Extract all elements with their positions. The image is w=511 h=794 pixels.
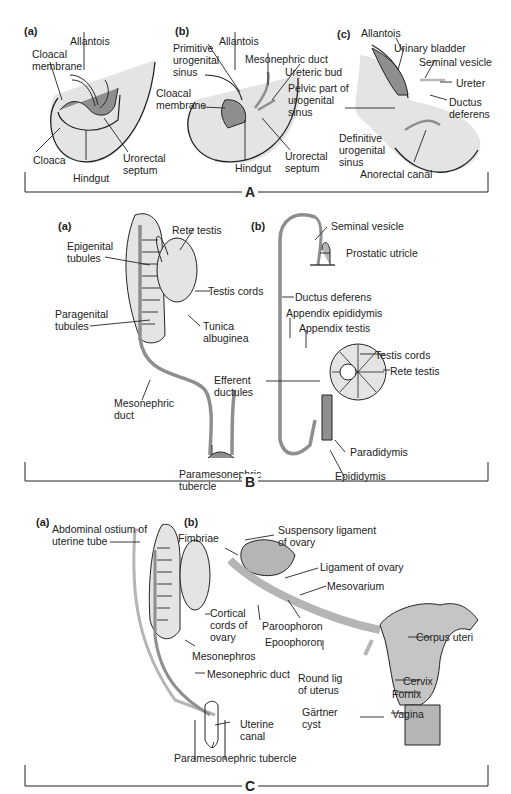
label-round-ligament: Round lig of uterus: [298, 672, 342, 696]
label-pelvic-part-urogenital-sinus: Pelvic part of urogenital sinus: [288, 82, 349, 118]
subpanel-tag-b-a: (a): [58, 220, 71, 232]
label-mesonephric-duct: Mesonephric duct: [207, 668, 290, 680]
label-cloaca: Cloaca: [33, 154, 66, 166]
panel-label-a: A: [242, 184, 258, 200]
label-ureteric-bud: Ureteric bud: [285, 66, 342, 78]
label-suspensory-ligament: Suspensory ligament of ovary: [278, 524, 376, 548]
label-rete-testis: Rete testis: [172, 224, 222, 236]
label-hindgut: Hindgut: [235, 162, 271, 174]
label-rete-testis: Rete testis: [390, 365, 440, 377]
label-allantois: Allantois: [70, 35, 110, 47]
label-cervix: Cervix: [403, 675, 433, 687]
label-epoophoron: Epoophoron: [265, 636, 322, 648]
subpanel-tag-a-a: (a): [24, 25, 37, 37]
label-ureter: Ureter: [456, 77, 485, 89]
label-mesonephric-duct: Mesonephric duct: [114, 397, 174, 421]
label-epididymis: Epididymis: [335, 470, 386, 482]
label-abdominal-ostium: Abdominal ostium of uterine tube: [52, 523, 147, 547]
label-uterine-canal: Uterine canal: [240, 718, 274, 742]
label-tunica-albuginea: Tunica albuginea: [203, 320, 249, 344]
label-vagina: Vagina: [392, 708, 424, 720]
label-seminal-vesicle: Seminal vesicle: [419, 56, 492, 68]
label-urorectal-septum: Urorectal septum: [285, 150, 328, 174]
label-testis-cords: Testis cords: [375, 349, 430, 361]
label-ductus-deferens: Ductus deferens: [295, 291, 371, 303]
panel-label-c: C: [242, 778, 258, 794]
subpanel-tag-c-a: (a): [36, 516, 49, 528]
label-epigenital-tubules: Epigenital tubules: [67, 240, 113, 264]
label-anorectal-canal: Anorectal canal: [360, 168, 432, 180]
panel-label-b: B: [242, 474, 258, 490]
label-mesonephric-duct: Mesonephric duct: [245, 53, 328, 65]
label-mesonephros: Mesonephros: [192, 650, 256, 662]
label-efferent-ductules: Efferent ductules: [214, 374, 253, 398]
label-cortical-cords: Cortical cords of ovary: [210, 607, 247, 643]
label-cloacal-membrane: Cloacal membrane: [32, 48, 82, 72]
label-hindgut: Hindgut: [73, 172, 109, 184]
label-appendix-testis: Appendix testis: [299, 322, 370, 334]
label-mesovarium: Mesovarium: [327, 580, 384, 592]
label-fimbriae: Fimbriae: [178, 532, 219, 544]
subpanel-tag-c-b: (b): [184, 516, 198, 528]
label-urorectal-septum: Urorectal septum: [123, 152, 166, 176]
label-paramesonephric-tubercle: Paramesonephric tubercle: [174, 752, 297, 764]
label-fornix: Fornix: [392, 688, 421, 700]
label-primitive-urogenital-sinus: Primitive urogenital sinus: [173, 42, 219, 78]
label-cloacal-membrane: Cloacal membrane: [156, 87, 206, 111]
label-prostatic-utricle: Prostatic utricle: [346, 247, 418, 259]
label-seminal-vesicle: Seminal vesicle: [331, 220, 404, 232]
label-allantois: Allantois: [361, 27, 401, 39]
subpanel-tag-b-b: (b): [251, 220, 265, 232]
label-paradidymis: Paradidymis: [350, 446, 408, 458]
label-urinary-bladder: Urinary bladder: [394, 42, 466, 54]
label-corpus-uteri: Corpus uteri: [416, 631, 473, 643]
label-definitive-urogenital-sinus: Definitive urogenital sinus: [339, 132, 385, 168]
label-paroophoron: Paroophoron: [262, 620, 323, 632]
subpanel-tag-a-b: (b): [175, 25, 189, 37]
label-gartner-cyst: Gärtner cyst: [302, 706, 338, 730]
label-ligament-of-ovary: Ligament of ovary: [320, 561, 403, 573]
label-paragenital-tubules: Paragenital tubules: [55, 308, 108, 332]
subpanel-tag-a-c: (c): [337, 28, 350, 40]
label-ductus-deferens: Ductus deferens: [449, 96, 490, 120]
label-allantois: Allantois: [219, 35, 259, 47]
label-appendix-epididymis: Appendix epididymis: [286, 307, 382, 319]
label-testis-cords: Testis cords: [208, 285, 263, 297]
